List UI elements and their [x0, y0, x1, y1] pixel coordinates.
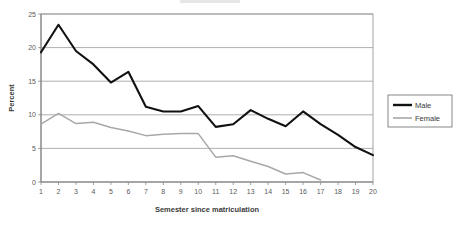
- line-chart: 0510152025 12345678910111213141516171819…: [0, 0, 455, 226]
- y-tick-label: 5: [32, 145, 36, 152]
- y-tick-labels-group: 0510152025: [28, 11, 41, 186]
- x-tick-label: 12: [229, 188, 237, 195]
- x-tick-label: 7: [144, 188, 148, 195]
- x-tick-label: 5: [109, 188, 113, 195]
- legend-label-female: Female: [415, 114, 440, 123]
- x-tick-label: 6: [126, 188, 130, 195]
- y-tick-label: 25: [28, 11, 36, 18]
- y-tick-label: 10: [28, 111, 36, 118]
- x-tick-label: 11: [212, 188, 219, 195]
- y-tick-label: 20: [28, 44, 36, 51]
- x-tick-label: 2: [57, 188, 61, 195]
- x-tick-label: 18: [334, 188, 342, 195]
- y-tick-label: 0: [32, 179, 36, 186]
- x-tick-label: 1: [39, 188, 43, 195]
- gridlines-group: [41, 14, 373, 148]
- x-tick-label: 16: [299, 188, 307, 195]
- legend-label-male: Male: [415, 101, 431, 110]
- x-tick-label: 15: [282, 188, 290, 195]
- x-tick-label: 13: [247, 188, 255, 195]
- chart-container: 0510152025 12345678910111213141516171819…: [0, 0, 455, 226]
- x-tick-label: 8: [161, 188, 165, 195]
- x-tick-label: 14: [264, 188, 272, 195]
- x-tick-label: 4: [91, 188, 95, 195]
- x-tick-label: 19: [352, 188, 360, 195]
- plot-area-border: [41, 14, 373, 182]
- scan-artifact: [180, 0, 240, 3]
- y-axis-title: Percent: [7, 84, 16, 112]
- series-line-male: [41, 25, 373, 155]
- y-tick-label: 15: [28, 78, 36, 85]
- x-tick-labels-group: 1234567891011121314151617181920: [39, 182, 377, 195]
- x-tick-label: 3: [74, 188, 78, 195]
- x-tick-label: 10: [194, 188, 202, 195]
- legend: Male Female: [388, 95, 452, 127]
- x-axis-title: Semester since matriculation: [155, 205, 260, 214]
- x-tick-label: 20: [369, 188, 377, 195]
- x-tick-label: 17: [317, 188, 325, 195]
- x-tick-label: 9: [179, 188, 183, 195]
